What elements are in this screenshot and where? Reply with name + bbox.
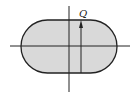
q-label: Q xyxy=(79,8,87,19)
diagram-canvas: Q xyxy=(0,0,137,97)
